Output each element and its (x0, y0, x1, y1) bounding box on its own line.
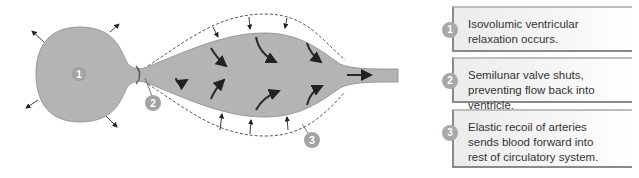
legend-step-3: 3 Elastic recoil of arteries sends blood… (452, 109, 632, 168)
marker-2: 2 (145, 95, 161, 111)
step-text: Semilunar valve shuts, preventing flow b… (468, 68, 638, 113)
svg-text:1: 1 (76, 69, 82, 80)
svg-text:2: 2 (150, 98, 156, 109)
marker-3: 3 (304, 132, 320, 148)
ventricle-artery-shape (36, 27, 398, 122)
legend-step-2: 2 Semilunar valve shuts, preventing flow… (452, 57, 632, 103)
step-number-badge: 1 (442, 22, 458, 38)
step-text: Elastic recoil of arteries sends blood f… (468, 120, 613, 165)
step-number-badge: 2 (442, 73, 458, 89)
ventricle-artery-diagram: 1 2 3 (0, 0, 430, 178)
marker-1: 1 (71, 66, 87, 82)
step-text: Isovolumic ventricular relaxation occurs… (468, 17, 588, 47)
svg-text:3: 3 (309, 135, 315, 146)
legend-step-1: 1 Isovolumic ventricular relaxation occu… (452, 6, 632, 52)
step-number-badge: 3 (442, 125, 458, 141)
